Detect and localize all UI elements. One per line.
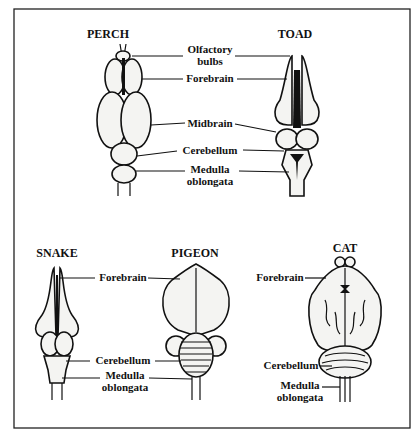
pigeon-brain <box>163 264 229 400</box>
svg-text:Olfactory: Olfactory <box>187 43 233 55</box>
label-medulla-snake-pigeon: Medulla oblongata <box>62 369 192 393</box>
label-forebrain-top: Forebrain <box>142 72 287 84</box>
svg-text:Cerebellum: Cerebellum <box>183 144 238 156</box>
svg-text:Medulla: Medulla <box>280 379 320 391</box>
label-medulla-cat: Medulla oblongata <box>277 379 340 403</box>
label-forebrain-cat: Forebrain <box>256 271 326 283</box>
title-cat: CAT <box>333 241 357 255</box>
svg-text:Medulla: Medulla <box>105 369 145 381</box>
cat-brain <box>309 257 381 402</box>
perch-brain <box>97 44 151 196</box>
label-forebrain-snake-pigeon: Forebrain <box>60 271 180 283</box>
svg-text:Medulla: Medulla <box>190 163 230 175</box>
toad-brain <box>275 56 319 196</box>
label-midbrain: Midbrain <box>151 117 276 132</box>
svg-text:Forebrain: Forebrain <box>256 271 303 283</box>
label-medulla-top: Medulla oblongata <box>136 163 289 187</box>
title-snake: SNAKE <box>36 246 77 260</box>
svg-text:Cerebellum: Cerebellum <box>96 354 151 366</box>
svg-text:Cerebellum: Cerebellum <box>264 359 319 371</box>
title-perch: PERCH <box>87 27 130 41</box>
label-cerebellum-top: Cerebellum <box>137 144 284 156</box>
brain-comparison-diagram: PERCH TOAD Olfactory bulbs Forebrain Mid… <box>0 0 417 439</box>
label-olfactory-bulbs: Olfactory bulbs <box>132 43 290 67</box>
svg-text:Midbrain: Midbrain <box>187 117 232 129</box>
svg-text:oblongata: oblongata <box>187 175 234 187</box>
snake-brain <box>36 268 79 400</box>
svg-text:Forebrain: Forebrain <box>99 271 146 283</box>
svg-text:oblongata: oblongata <box>102 381 149 393</box>
svg-text:bulbs: bulbs <box>197 55 223 67</box>
label-cerebellum-snake-pigeon: Cerebellum <box>66 354 181 366</box>
svg-text:oblongata: oblongata <box>277 391 324 403</box>
title-pigeon: PIGEON <box>171 246 219 260</box>
title-toad: TOAD <box>278 27 313 41</box>
svg-text:Forebrain: Forebrain <box>186 72 233 84</box>
